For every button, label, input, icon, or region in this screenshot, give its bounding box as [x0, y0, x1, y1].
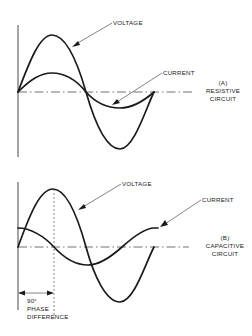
panel-a-caption-line-1: RESISTIVE [206, 87, 240, 94]
panel-a-current-arrowhead [112, 99, 120, 105]
panel-b-capacitive: 90° PHASE DIFFERENCE VOLTAGE CURRENT (B)… [18, 180, 244, 320]
panel-b-current-leader [165, 200, 201, 224]
panel-a-current-label: CURRENT [163, 69, 195, 76]
panel-b-phase-arrow-right [47, 291, 54, 296]
panel-a-current-leader [117, 73, 162, 102]
panel-b-caption-line-2: CIRCUIT [212, 250, 239, 257]
panel-a-voltage-label: VOLTAGE [113, 19, 143, 26]
panel-b-phase-arrow-left [18, 291, 25, 296]
panel-b-current-wave [18, 228, 158, 265]
panel-b-phase-degrees: 90° [27, 297, 37, 304]
panel-a-resistive: VOLTAGE CURRENT (A) RESISTIVE CIRCUIT [18, 19, 240, 157]
panel-a-voltage-arrowhead [72, 41, 80, 47]
panel-a-caption-id: (A) [219, 79, 228, 86]
panel-b-phase-word: PHASE [27, 305, 49, 312]
panel-b-caption-id: (B) [221, 234, 230, 241]
panel-a-caption-line-2: CIRCUIT [210, 95, 237, 102]
ac-phase-diagram: VOLTAGE CURRENT (A) RESISTIVE CIRCUIT 90… [0, 0, 252, 336]
panel-b-current-label: CURRENT [202, 196, 234, 203]
panel-b-voltage-wave [18, 189, 154, 302]
panel-b-current-arrowhead [160, 220, 168, 227]
panel-a-voltage-leader [76, 23, 112, 44]
panel-b-caption-line-1: CAPACITIVE [206, 242, 244, 249]
panel-b-voltage-arrowhead [78, 204, 86, 210]
panel-b-voltage-label: VOLTAGE [122, 180, 152, 187]
panel-b-difference-word: DIFFERENCE [27, 313, 69, 320]
panel-b-voltage-leader [83, 184, 121, 207]
